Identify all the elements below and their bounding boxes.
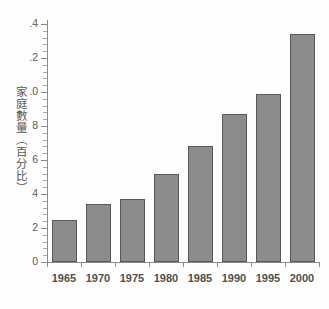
y-axis-minor-tick <box>43 180 47 181</box>
y-axis-minor-tick <box>43 201 47 202</box>
bar <box>154 174 179 262</box>
y-axis-minor-tick <box>43 221 47 222</box>
y-axis-minor-tick <box>43 235 47 236</box>
bar <box>188 146 213 262</box>
y-axis-minor-tick <box>43 78 47 79</box>
y-axis-minor-tick <box>43 112 47 113</box>
y-axis-line <box>47 20 48 263</box>
y-axis-minor-tick <box>43 51 47 52</box>
y-axis-minor-tick <box>43 133 47 134</box>
x-axis-tick <box>115 262 116 267</box>
y-axis-minor-tick <box>43 140 47 141</box>
y-axis-minor-tick <box>43 214 47 215</box>
y-axis-minor-tick <box>43 174 47 175</box>
y-axis-tick <box>41 92 47 93</box>
bar <box>52 220 77 263</box>
y-axis-minor-tick <box>43 187 47 188</box>
y-axis-tick-label: 6 <box>12 153 38 165</box>
bar <box>256 94 281 262</box>
x-axis-tick <box>251 262 252 267</box>
x-axis-tick-label: 2000 <box>280 272 324 284</box>
x-axis-tick <box>217 262 218 267</box>
x-axis-tick <box>81 262 82 267</box>
y-axis-minor-tick <box>43 38 47 39</box>
y-axis-tick-label: 2 <box>12 221 38 233</box>
y-axis-tick <box>41 160 47 161</box>
y-axis-minor-tick <box>43 248 47 249</box>
y-axis-minor-tick <box>43 255 47 256</box>
y-axis-tick <box>41 228 47 229</box>
y-axis-minor-tick <box>43 119 47 120</box>
y-axis-tick <box>41 58 47 59</box>
y-axis-minor-tick <box>43 31 47 32</box>
x-axis-tick <box>319 262 320 267</box>
y-axis-tick-label: 0 <box>12 255 38 267</box>
y-axis-minor-tick <box>43 99 47 100</box>
y-axis-tick-label: 8 <box>12 119 38 131</box>
x-axis-tick <box>149 262 150 267</box>
y-axis-minor-tick <box>43 85 47 86</box>
y-axis-minor-tick <box>43 44 47 45</box>
bar <box>222 114 247 262</box>
y-axis-minor-tick <box>43 106 47 107</box>
y-axis-minor-tick <box>43 65 47 66</box>
y-axis-tick-label: .4 <box>12 17 38 29</box>
bar <box>120 199 145 262</box>
y-axis-tick <box>41 126 47 127</box>
bar-chart: 家庭數量（百分比） .4.2.086420 196519701975198019… <box>0 0 329 309</box>
y-axis-minor-tick <box>43 153 47 154</box>
y-axis-tick-label: .0 <box>12 85 38 97</box>
y-axis-tick <box>41 194 47 195</box>
x-axis-tick <box>183 262 184 267</box>
y-axis-tick <box>41 24 47 25</box>
y-axis-minor-tick <box>43 72 47 73</box>
y-axis-minor-tick <box>43 242 47 243</box>
y-axis-title: 家庭數量（百分比） <box>8 86 28 194</box>
x-axis-tick <box>47 262 48 267</box>
y-axis-tick-label: 4 <box>12 187 38 199</box>
x-axis-tick <box>285 262 286 267</box>
bar <box>290 34 315 262</box>
bar <box>86 204 111 262</box>
y-axis-minor-tick <box>43 167 47 168</box>
y-axis-minor-tick <box>43 208 47 209</box>
y-axis-tick-label: .2 <box>12 51 38 63</box>
y-axis-minor-tick <box>43 146 47 147</box>
